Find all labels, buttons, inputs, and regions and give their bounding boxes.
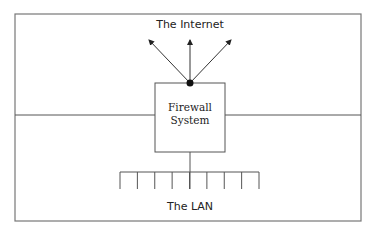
firewall-diagram: The Internet Firewall System The LAN	[0, 0, 375, 233]
lan-hosts	[120, 172, 259, 189]
internet-arrow	[149, 40, 190, 83]
firewall-label-line2: System	[171, 114, 210, 126]
internet-arrow	[190, 40, 231, 83]
internet-label: The Internet	[155, 18, 224, 31]
gateway-node	[187, 80, 194, 87]
lan-label: The LAN	[166, 200, 213, 213]
internet-arrows	[149, 40, 231, 83]
firewall-label-line1: Firewall	[168, 101, 212, 113]
